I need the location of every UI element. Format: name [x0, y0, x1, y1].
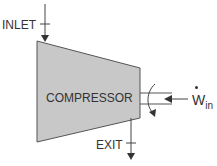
inlet-arrow-icon: [40, 4, 50, 42]
exit-arrow-icon: [126, 118, 136, 160]
work-subscript: in: [205, 100, 213, 111]
inlet-label: INLET: [2, 18, 36, 32]
work-input-arrow-icon: [164, 95, 188, 103]
compressor-label: COMPRESSOR: [46, 91, 133, 105]
rate-dot-icon: [195, 86, 198, 89]
exit-label: EXIT: [96, 138, 123, 152]
work-input-label: Win: [192, 92, 213, 111]
rotation-arrow-icon: [148, 84, 156, 117]
compressor-diagram: INLET COMPRESSOR EXIT Win: [0, 0, 217, 166]
work-symbol: W: [192, 92, 205, 108]
